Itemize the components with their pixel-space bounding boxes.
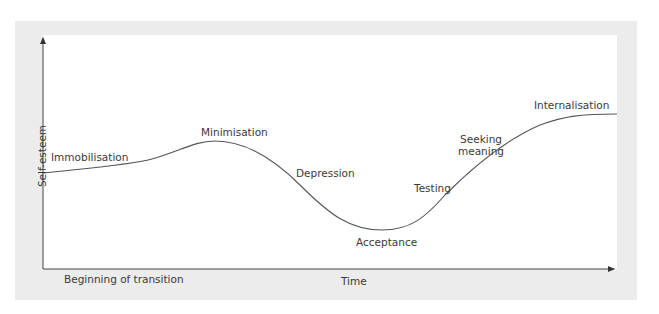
stage-label-seeking-meaning: Seeking meaning	[458, 133, 504, 157]
stage-label-acceptance: Acceptance	[356, 236, 417, 248]
y-axis-label: Self-esteem	[36, 121, 48, 191]
stage-label-minimisation: Minimisation	[201, 126, 268, 138]
stage-label-internalisation: Internalisation	[534, 99, 609, 111]
stage-label-meaning: meaning	[458, 145, 504, 157]
stage-label-seeking: Seeking	[458, 133, 504, 145]
stage-label-testing: Testing	[414, 182, 451, 194]
stage-label-depression: Depression	[296, 167, 355, 179]
x-axis-label: Time	[341, 275, 367, 287]
x-axis-start-label: Beginning of transition	[64, 273, 184, 285]
stage-label-immobilisation: Immobilisation	[51, 151, 128, 163]
